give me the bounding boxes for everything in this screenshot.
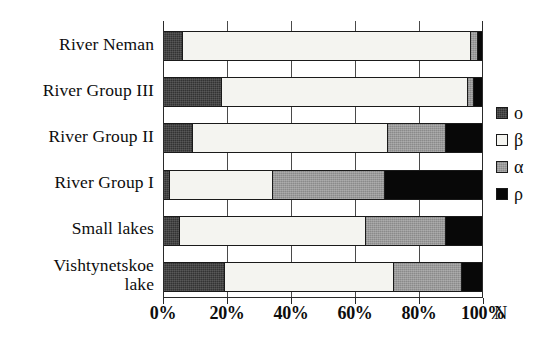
legend-label: ρ [514, 185, 523, 203]
legend-label: α [514, 158, 523, 176]
legend-swatch-icon [496, 134, 508, 146]
category-label: River Group III [6, 81, 154, 100]
category-label: River Neman [6, 35, 154, 54]
legend-label: β [514, 131, 523, 149]
x-axis-tick-label: 80% [401, 303, 436, 324]
x-axis-unit-label: N [494, 303, 507, 324]
legend-swatch-icon [496, 161, 508, 173]
legend-item: β [496, 126, 554, 153]
plot-frame [163, 21, 483, 298]
category-label: River Group II [6, 127, 154, 146]
legend-item: o [496, 99, 554, 126]
x-axis-tick-label: 40% [273, 303, 308, 324]
x-axis-tick-label: 0% [150, 303, 176, 324]
legend-label: o [514, 104, 523, 122]
legend-item: ρ [496, 180, 554, 207]
legend-item: α [496, 153, 554, 180]
category-label: Vishtynetskoe lake [6, 256, 154, 294]
category-axis: River NemanRiver Group IIIRiver Group II… [6, 18, 158, 298]
saprobity-stacked-bar-chart: River NemanRiver Group IIIRiver Group II… [0, 0, 556, 341]
x-axis-tick-label: 60% [337, 303, 372, 324]
legend: oβαρ [496, 99, 554, 207]
legend-swatch-icon [496, 107, 508, 119]
x-axis-tick-label: 20% [209, 303, 244, 324]
x-axis-tick-labels: 0%20%40%60%80%100% [120, 303, 540, 333]
plot-area [163, 21, 483, 298]
category-label: Small lakes [6, 219, 154, 238]
category-label: River Group I [6, 173, 154, 192]
legend-swatch-icon [496, 188, 508, 200]
